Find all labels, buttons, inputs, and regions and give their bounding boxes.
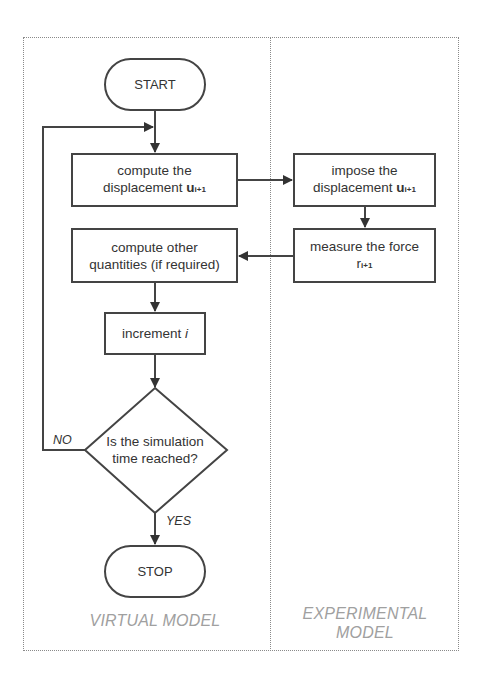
compute-displacement-line1: compute the — [117, 162, 191, 179]
experimental-model-label: EXPERIMENTAL MODEL — [280, 604, 450, 642]
compute-other-line2: quantities (if required) — [89, 256, 220, 273]
measure-force-var: ri+1 — [357, 255, 373, 274]
compute-other-line1: compute other — [111, 239, 197, 256]
decision-line2: time reached? — [95, 450, 215, 467]
start-node: START — [104, 58, 206, 111]
compute-other-node: compute other quantities (if required) — [71, 228, 238, 283]
stop-label: STOP — [137, 563, 172, 580]
increment-label: increment i — [122, 325, 188, 342]
impose-displacement-line1: impose the — [331, 162, 397, 179]
connector-lines — [0, 0, 481, 678]
impose-displacement-node: impose the displacement ui+1 — [293, 153, 436, 207]
decision-line1: Is the simulation — [95, 433, 215, 450]
decision-text: Is the simulation time reached? — [95, 433, 215, 467]
yes-label: YES — [166, 514, 191, 528]
stop-node: STOP — [104, 545, 206, 598]
increment-node: increment i — [104, 312, 206, 355]
no-label: NO — [53, 433, 72, 447]
compute-displacement-line2: displacement ui+1 — [103, 179, 206, 198]
measure-force-node: measure the force ri+1 — [293, 228, 436, 283]
impose-displacement-line2: displacement ui+1 — [313, 179, 416, 198]
virtual-model-label: VIRTUAL MODEL — [60, 611, 250, 630]
measure-force-line1: measure the force — [310, 238, 419, 255]
compute-displacement-node: compute the displacement ui+1 — [71, 153, 238, 207]
start-label: START — [134, 76, 175, 93]
